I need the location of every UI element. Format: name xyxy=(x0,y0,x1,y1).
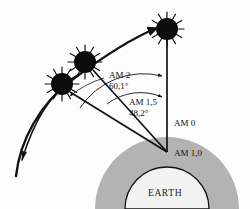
arc-tick-outer xyxy=(70,78,104,96)
label-am15-name: AM 1,5 xyxy=(129,97,158,107)
label-am0: AM 0 xyxy=(174,118,196,128)
label-earth: EARTH xyxy=(148,188,182,198)
label-am10: AM 1,0 xyxy=(174,148,203,158)
label-am15-angle: 48,2° xyxy=(129,108,149,118)
sun-disc xyxy=(74,51,96,73)
sun-disc xyxy=(51,73,73,95)
sun-am0 xyxy=(150,12,184,46)
sun-am2 xyxy=(45,67,79,101)
label-am2-name: AM 2 xyxy=(109,70,130,80)
sun-disc xyxy=(156,18,178,40)
label-am2-angle: 60,1° xyxy=(109,81,129,91)
figure-svg: AM 2 60,1° AM 1,5 48,2° AM 0 AM 1,0 EART… xyxy=(0,0,250,209)
diagram-canvas: AM 2 60,1° AM 1,5 48,2° AM 0 AM 1,0 EART… xyxy=(0,0,250,209)
